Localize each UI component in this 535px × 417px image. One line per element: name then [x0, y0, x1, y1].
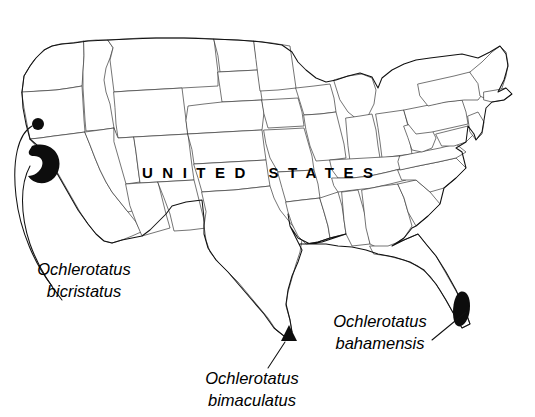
state-minnesota [254, 41, 296, 91]
state-michigan [334, 74, 376, 120]
label-bicristatus-species: bicristatus [47, 282, 121, 300]
state-nebraska [186, 100, 264, 134]
state-wyoming [114, 88, 188, 138]
label-bimaculatus-genus: Ochlerotatus [205, 369, 299, 387]
marker-circle-bicristatus-north [32, 118, 44, 130]
state-north-dakota [214, 39, 258, 72]
label-bahamensis-genus: Ochlerotatus [333, 312, 427, 330]
state-iowa [262, 98, 304, 128]
label-bimaculatus-species: bimaculatus [208, 391, 296, 409]
country-label: UNITED STATES [142, 164, 382, 181]
label-bimaculatus-group: Ochlerotatus bimaculatus [205, 369, 299, 409]
state-washington [22, 41, 84, 92]
state-wisconsin [296, 84, 336, 115]
label-bicristatus-genus: Ochlerotatus [37, 260, 131, 278]
state-indiana [346, 114, 380, 161]
label-bahamensis-species: bahamensis [336, 334, 425, 352]
state-oregon [22, 86, 85, 139]
label-bahamensis-group: Ochlerotatus bahamensis [333, 312, 427, 352]
state-kansas [188, 130, 266, 164]
leader-line-bicristatus-lower [23, 166, 63, 300]
map-svg: UNITED STATES Ochlerotatus bicristatus O… [0, 0, 535, 417]
distribution-map-figure: UNITED STATES Ochlerotatus bicristatus O… [0, 0, 535, 417]
state-idaho [83, 40, 114, 131]
leader-line-bimaculatus [268, 342, 285, 368]
state-south-dakota [218, 70, 262, 102]
state-montana [108, 38, 218, 92]
label-bicristatus-group: Ochlerotatus bicristatus [37, 260, 131, 300]
country-label-group: UNITED STATES [142, 164, 382, 181]
